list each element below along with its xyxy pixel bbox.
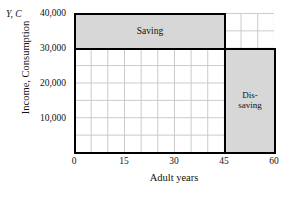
x-tick-45: 45 (219, 156, 229, 166)
x-axis-title: Adult years (74, 172, 274, 183)
x-tick-30: 30 (169, 156, 179, 166)
x-tick-0: 0 (72, 156, 77, 166)
x-tick-60: 60 (269, 156, 279, 166)
x-tick-labels: 0 15 30 45 60 (0, 0, 297, 201)
y-axis-title: Income, Consumption (20, 3, 31, 133)
x-tick-15: 15 (119, 156, 129, 166)
